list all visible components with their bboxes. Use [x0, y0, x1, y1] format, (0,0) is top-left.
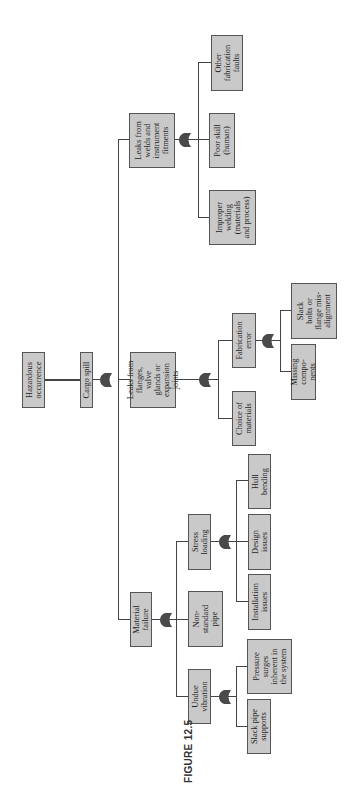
node-hazardous-occurrence: Hazardous occurrence — [22, 352, 45, 408]
connector — [176, 696, 188, 697]
connector — [236, 480, 248, 481]
connector — [176, 541, 188, 542]
connector — [218, 340, 232, 341]
node-pressure-surges: Pressure surges inherent in the system — [247, 639, 292, 694]
node-slack-bolts: Slack bolts or flange mis- alignment — [291, 283, 337, 339]
node-cargo-spill: Cargo spill — [80, 352, 93, 408]
connector — [236, 541, 248, 542]
connector — [218, 418, 232, 419]
node-other-fabrication-faults: Other fabrication faults — [211, 35, 243, 91]
node-poor-skill: Poor skill (human) — [209, 113, 235, 168]
connector — [198, 139, 209, 140]
connector — [45, 379, 80, 380]
node-hull-bending: Hull bending — [248, 454, 271, 509]
connector — [118, 140, 119, 620]
node-material-failure: Material failure — [130, 592, 152, 647]
connector — [280, 310, 291, 311]
connector — [118, 619, 130, 620]
connector — [280, 311, 281, 372]
connector — [45, 380, 80, 381]
connector — [236, 667, 237, 727]
node-improper-welding: Improper welding (materials and process) — [209, 190, 256, 245]
or-gate-icon — [179, 133, 191, 147]
or-gate-icon — [160, 613, 172, 627]
node-slack-pipe-supports: Slack pipe supports — [247, 699, 271, 754]
connector — [198, 217, 209, 218]
connector — [236, 601, 248, 602]
node-non-standard-pipe: Non- standard pipe — [188, 591, 223, 647]
node-undue-vibration: Undue vibration — [188, 669, 211, 724]
node-leaks-flanges: Leaks from flanges, valve glands or expa… — [130, 352, 176, 408]
or-gate-icon — [100, 373, 112, 387]
connector — [176, 379, 218, 380]
fault-tree-diagram: Hazardous occurrence Cargo spill Materia… — [0, 0, 363, 785]
node-choice-of-materials: Choice of materials — [232, 391, 256, 446]
or-gate-icon — [219, 535, 231, 549]
connector — [236, 666, 247, 667]
connector — [118, 139, 129, 140]
connector — [198, 62, 211, 63]
connector — [218, 341, 219, 419]
node-fabrication-error: Fabrication error — [232, 313, 256, 368]
node-installation-issues: Installation issues — [248, 574, 271, 630]
figure-label: FIGURE 12.5 — [183, 720, 194, 783]
or-gate-icon — [219, 690, 231, 704]
node-design-issues: Design issues — [248, 514, 271, 570]
connector — [236, 726, 247, 727]
connector — [176, 619, 188, 620]
node-missing-components: Missing compo- nents — [291, 344, 316, 400]
or-gate-icon — [199, 373, 211, 387]
node-leaks-welds: Leaks from welds and instrument fitments — [129, 113, 175, 168]
connector — [198, 63, 199, 218]
or-gate-icon — [262, 334, 274, 348]
node-stress-loading: Stress loading — [188, 514, 211, 570]
